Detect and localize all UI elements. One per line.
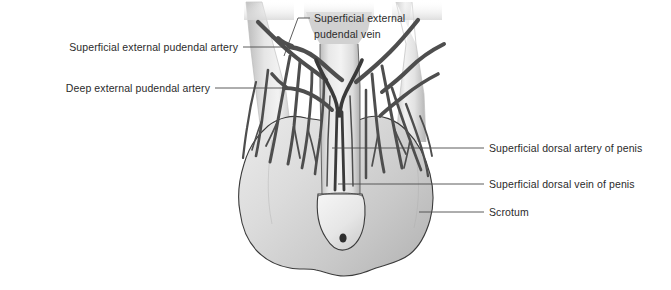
- label-superficial-external-pudendal-vein-line1: Superficial external: [314, 12, 405, 24]
- label-superficial-dorsal-vein-of-penis: Superficial dorsal vein of penis: [489, 178, 635, 190]
- anatomical-figure: Superficial external pudendal artery Dee…: [0, 0, 671, 290]
- anatomy-illustration-svg: Superficial external pudendal artery Dee…: [0, 0, 671, 290]
- label-deep-external-pudendal-artery: Deep external pudendal artery: [66, 82, 211, 94]
- label-superficial-external-pudendal-vein-line2: pudendal vein: [314, 28, 381, 40]
- label-superficial-external-pudendal-artery: Superficial external pudendal artery: [69, 41, 238, 53]
- label-superficial-dorsal-artery-of-penis: Superficial dorsal artery of penis: [489, 142, 642, 154]
- label-scrotum: Scrotum: [489, 206, 529, 218]
- external-urethral-meatus: [339, 233, 346, 242]
